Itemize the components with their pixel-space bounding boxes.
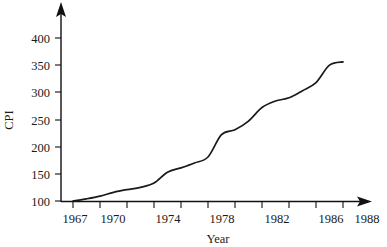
- y-axis: [56, 2, 66, 202]
- x-axis-tick-labels: 1967 1970 1974 1978 1982 1986 1988: [63, 212, 380, 226]
- x-tick-label-1970: 1970: [101, 212, 126, 226]
- x-tick-label-1986: 1986: [319, 212, 344, 226]
- x-tick-label-1967: 1967: [63, 212, 88, 226]
- y-tick-label-400: 400: [31, 32, 50, 46]
- y-tick-label-100: 100: [31, 195, 50, 209]
- x-tick-label-1982: 1982: [265, 212, 290, 226]
- x-tick-label-1988: 1988: [355, 212, 380, 226]
- y-axis-title: CPI: [2, 110, 16, 129]
- x-tick-label-1978: 1978: [210, 212, 235, 226]
- y-tick-label-300: 300: [31, 86, 50, 100]
- cpi-data-line: [73, 62, 343, 201]
- y-tick-label-250: 250: [31, 114, 50, 128]
- chart-canvas: 100 150 200 250 300 350 400 1967 1970: [0, 0, 387, 247]
- x-axis: [61, 197, 372, 207]
- cpi-line-chart: 100 150 200 250 300 350 400 1967 1970: [0, 0, 387, 247]
- y-tick-label-200: 200: [31, 141, 50, 155]
- x-axis-title: Year: [206, 232, 230, 246]
- x-tick-label-1974: 1974: [156, 212, 182, 226]
- y-axis-ticks: [55, 38, 61, 201]
- y-tick-label-350: 350: [31, 59, 50, 73]
- y-tick-label-150: 150: [31, 168, 50, 182]
- y-axis-tick-labels: 100 150 200 250 300 350 400: [31, 32, 50, 209]
